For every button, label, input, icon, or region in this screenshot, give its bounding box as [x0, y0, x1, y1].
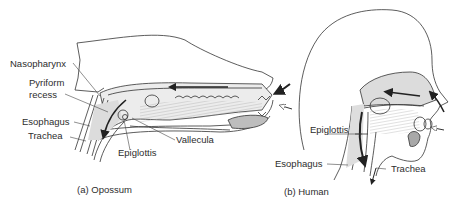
caption-human: (b) Human [284, 186, 329, 197]
label-vallecula: Vallecula [176, 134, 214, 145]
anatomy-illustration [0, 0, 454, 209]
label-recess: recess [29, 89, 57, 100]
label-trachea-b: Trachea [391, 163, 426, 174]
label-esophagus-b: Esophagus [275, 158, 323, 169]
caption-opossum: (a) Opossum [77, 184, 132, 195]
opossum-head [75, 35, 273, 162]
label-epiglottis-a: Epiglottis [118, 147, 157, 158]
label-epiglottis-b: Epiglottis [310, 124, 349, 135]
label-esophagus-a: Esophagus [22, 116, 70, 127]
label-trachea-a: Trachea [28, 130, 63, 141]
label-pyriform: Pyriform [29, 77, 64, 88]
human-head [299, 10, 448, 180]
label-nasopharynx: Nasopharynx [10, 58, 66, 69]
